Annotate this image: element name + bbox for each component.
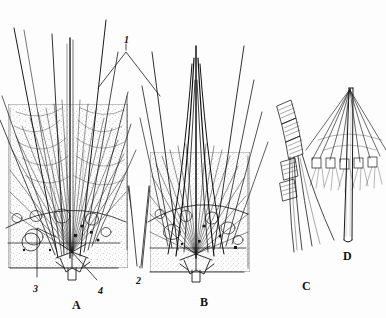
- callout-label-2: 2: [136, 276, 141, 286]
- panel-d-drawing: [306, 88, 386, 242]
- callout-label-3: 3: [33, 284, 38, 294]
- panel-label-c: C: [302, 280, 311, 292]
- panel-label-d: D: [343, 250, 352, 262]
- callout-label-1: 1: [124, 35, 129, 45]
- figure-plate: 1 2 3 4 A B C D: [0, 0, 386, 318]
- panel-label-b: B: [200, 296, 209, 308]
- callout-label-4: 4: [98, 286, 103, 296]
- panel-a-drawing: [0, 20, 136, 280]
- plate-drawing: [0, 0, 386, 318]
- panel-b-drawing: [140, 46, 268, 282]
- panel-label-a: A: [72, 299, 81, 311]
- callout-1-leader: [98, 44, 160, 96]
